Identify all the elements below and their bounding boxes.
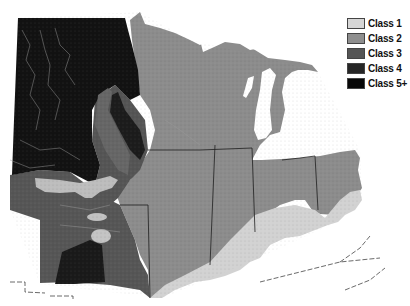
- legend-item-class4: Class 4: [347, 61, 410, 75]
- legend-label: Class 1: [368, 18, 402, 29]
- legend-item-class1: Class 1: [347, 16, 410, 30]
- legend-item-class3: Class 3: [347, 46, 410, 60]
- legend-swatch: [347, 18, 365, 29]
- legend-swatch: [347, 78, 365, 89]
- terrain-texture: [10, 12, 362, 298]
- legend-item-class2: Class 2: [347, 31, 410, 45]
- legend-label: Class 5+: [368, 78, 407, 89]
- legend-label: Class 4: [368, 63, 402, 74]
- legend-label: Class 3: [368, 48, 402, 59]
- legend: Class 1 Class 2 Class 3 Class 4 Class 5+: [347, 16, 410, 91]
- legend-label: Class 2: [368, 33, 402, 44]
- legend-item-class5plus: Class 5+: [347, 76, 410, 90]
- legend-swatch: [347, 63, 365, 74]
- legend-swatch: [347, 48, 365, 59]
- legend-swatch: [347, 33, 365, 44]
